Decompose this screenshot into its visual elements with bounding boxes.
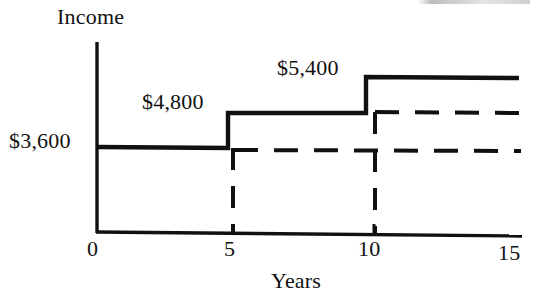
y-axis-label: Income <box>57 4 124 30</box>
x-axis-label: Years <box>271 268 321 294</box>
x-axis-line <box>96 232 522 236</box>
chart-canvas <box>0 0 538 305</box>
projection-line-4800 <box>375 112 521 113</box>
value-label-4800: $4,800 <box>142 89 204 115</box>
value-label-3600: $3,600 <box>9 128 71 154</box>
income-step-chart: Income $3,600 $4,800 $5,400 0 5 10 15 Ye… <box>0 0 538 305</box>
projection-line-3600 <box>234 150 521 151</box>
value-label-5400: $5,400 <box>277 55 339 81</box>
x-tick-label-15: 15 <box>498 240 520 266</box>
x-tick-label-10: 10 <box>358 236 380 262</box>
x-tick-label-5: 5 <box>224 236 235 262</box>
x-tick-label-0: 0 <box>87 236 98 262</box>
